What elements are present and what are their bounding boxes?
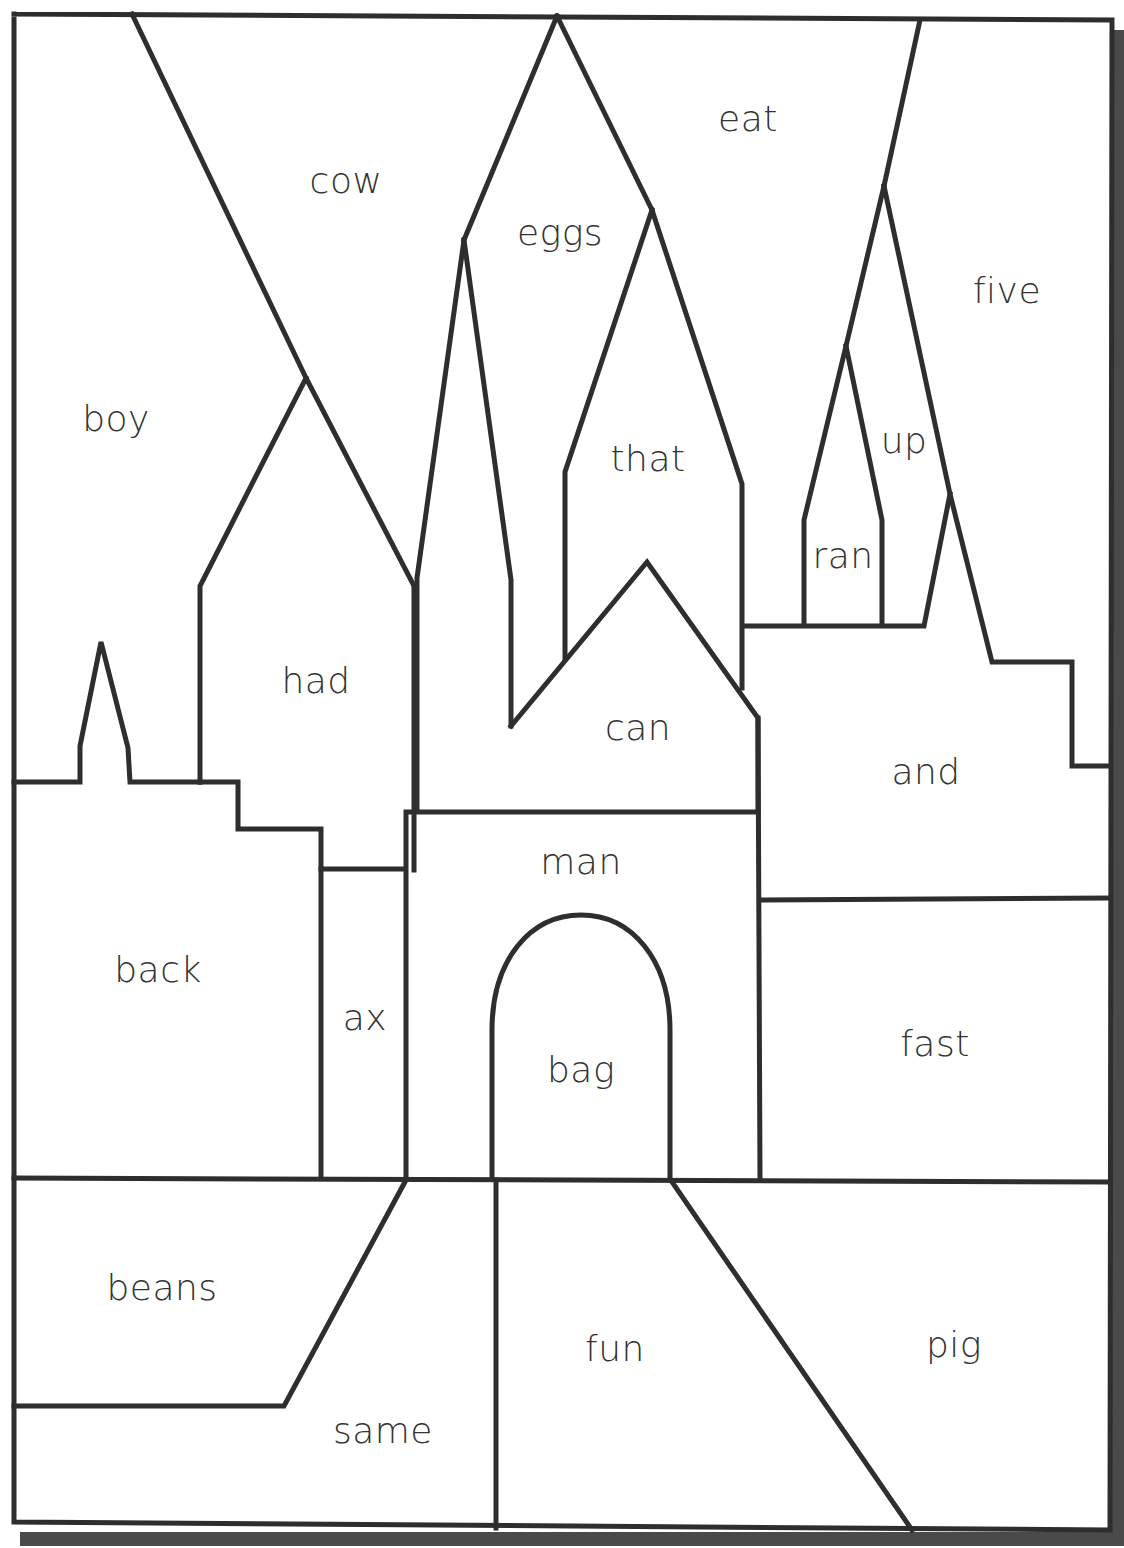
gate-right-edge: [758, 718, 760, 1178]
word-five: five: [973, 270, 1041, 311]
can-roof: [511, 562, 758, 810]
fun-pig-divider: [672, 1182, 912, 1530]
word-ax: ax: [343, 997, 387, 1038]
word-and: and: [891, 751, 960, 792]
page-shadow-bottom: [20, 1532, 1120, 1546]
word-same: same: [333, 1410, 433, 1451]
word-ran: ran: [812, 535, 873, 576]
word-bag: bag: [547, 1049, 615, 1090]
eggs-right-roof: [557, 16, 652, 210]
tower-inner-edge: [464, 240, 511, 726]
word-can: can: [605, 707, 671, 748]
word-fun: fun: [585, 1328, 645, 1369]
tower-left-edge: [417, 240, 464, 808]
word-up: up: [881, 420, 928, 461]
word-eat: eat: [718, 98, 778, 139]
word-boy: boy: [82, 398, 150, 439]
word-man: man: [540, 841, 621, 882]
had-steps: [200, 782, 405, 869]
cow-left-edge: [132, 14, 414, 586]
ground-line: [14, 1178, 1110, 1182]
eat-five-divider: [884, 20, 920, 186]
had-tower-left: [200, 378, 306, 782]
coloring-sheet: cow eat eggs five boy up that ran had ca…: [0, 0, 1124, 1548]
that-tower-left: [565, 210, 652, 658]
word-cow: cow: [310, 160, 383, 201]
ran-tower-right: [846, 346, 882, 624]
word-fast: fast: [900, 1023, 970, 1064]
and-fast-divider: [760, 898, 1110, 900]
word-that: that: [610, 438, 685, 479]
eggs-left-roof: [464, 16, 557, 240]
word-back: back: [114, 949, 202, 990]
word-pig: pig: [926, 1324, 982, 1365]
word-beans: beans: [106, 1267, 217, 1308]
word-had: had: [281, 660, 350, 701]
word-eggs: eggs: [517, 212, 603, 253]
small-spire: [14, 642, 200, 782]
arch-door: [492, 915, 670, 1178]
